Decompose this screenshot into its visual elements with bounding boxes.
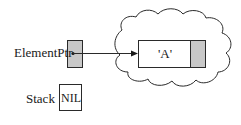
diagram-canvas [0, 0, 241, 125]
node-next-field [191, 41, 206, 68]
stack-label: Stack [26, 92, 55, 106]
node-info-value: 'A' [152, 47, 178, 61]
element-ptr-label: ElementPtr [14, 46, 73, 60]
stack-value: NIL [60, 91, 82, 105]
